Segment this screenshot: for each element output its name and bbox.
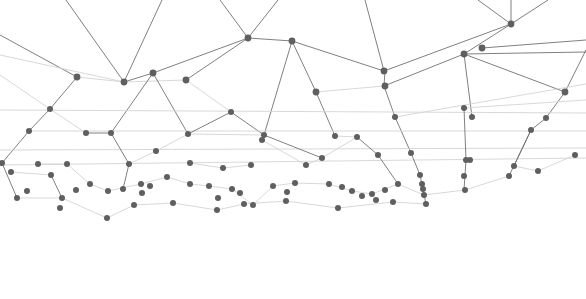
mesh-edge [295, 183, 329, 184]
mesh-node [535, 168, 541, 174]
mesh-edge [482, 40, 586, 48]
mesh-node [131, 202, 137, 208]
mesh-node [147, 183, 153, 189]
mesh-node [250, 202, 256, 208]
mesh-node [64, 161, 70, 167]
mesh-edge [464, 54, 565, 92]
mesh-node [461, 51, 468, 58]
mesh-node [469, 114, 475, 120]
mesh-edge [223, 165, 251, 168]
mesh-edge [411, 153, 420, 175]
mesh-edge [292, 41, 384, 71]
mesh-node [104, 215, 110, 221]
mesh-node [419, 181, 425, 187]
mesh-edge [186, 38, 248, 80]
mesh-edge [0, 110, 586, 113]
mesh-node [373, 197, 379, 203]
mesh-node [284, 189, 290, 195]
mesh-node [220, 165, 226, 171]
mesh-node [126, 161, 132, 167]
mesh-edge [393, 202, 426, 204]
mesh-edge [264, 41, 292, 135]
mesh-edge [365, 0, 384, 71]
mesh-edge [29, 109, 50, 131]
mesh-node [420, 186, 426, 192]
mesh-edge [464, 52, 586, 54]
mesh-node [392, 114, 398, 120]
mesh-edge [173, 203, 217, 210]
mesh-edge [220, 0, 248, 38]
mesh-edge [50, 77, 77, 109]
network-mesh-graphic [0, 0, 586, 299]
mesh-node [248, 162, 254, 168]
mesh-node [108, 130, 114, 136]
mesh-edge [124, 80, 186, 82]
mesh-node [417, 172, 423, 178]
mesh-node [506, 173, 512, 179]
mesh-edge [2, 131, 29, 163]
mesh-edge [0, 158, 586, 165]
mesh-edge [384, 54, 464, 86]
mesh-node [187, 160, 193, 166]
mesh-node [421, 192, 427, 198]
mesh-node [462, 187, 468, 193]
mesh-node [150, 70, 157, 77]
mesh-edge [0, 148, 586, 150]
mesh-node [138, 181, 144, 187]
mesh-edge [134, 203, 173, 205]
mesh-node [326, 181, 332, 187]
mesh-edge [465, 176, 509, 190]
mesh-node [121, 79, 128, 86]
mesh-edge [107, 205, 134, 218]
mesh-edge [124, 73, 153, 82]
mesh-node [562, 89, 569, 96]
mesh-edge [66, 0, 124, 82]
mesh-edge [357, 137, 378, 155]
mesh-node [259, 137, 265, 143]
mesh-edge [217, 204, 244, 210]
mesh-node [8, 169, 14, 175]
mesh-node [543, 115, 549, 121]
mesh-node [74, 74, 81, 81]
mesh-edge [2, 163, 17, 198]
mesh-node [375, 152, 381, 158]
mesh-node [215, 195, 221, 201]
mesh-node [185, 131, 191, 137]
mesh-edge [316, 92, 335, 136]
mesh-node [382, 187, 388, 193]
mesh-edge [123, 164, 129, 189]
mesh-node [572, 152, 578, 158]
mesh-node [241, 201, 247, 207]
mesh-edge [0, 35, 77, 77]
mesh-node [270, 183, 276, 189]
mesh-node [528, 127, 534, 133]
mesh-node [120, 186, 126, 192]
mesh-edge [316, 86, 384, 92]
mesh-edge [231, 112, 264, 135]
mesh-node [245, 35, 252, 42]
mesh-node [390, 199, 396, 205]
mesh-edge [51, 175, 62, 198]
mesh-node [359, 193, 365, 199]
mesh-edge [188, 134, 264, 135]
mesh-edge [546, 92, 565, 118]
mesh-node [73, 187, 79, 193]
mesh-edge [378, 155, 398, 184]
mesh-node [187, 181, 193, 187]
mesh-node [105, 188, 111, 194]
mesh-edge [156, 134, 188, 151]
mesh-edge [186, 80, 231, 112]
mesh-edge [322, 137, 357, 158]
mesh-node [228, 109, 234, 115]
mesh-edge [338, 202, 393, 208]
mesh-edge [478, 0, 511, 24]
mesh-edge [395, 117, 411, 153]
mesh-edge [124, 0, 162, 82]
mesh-node [153, 148, 159, 154]
mesh-edge [464, 108, 466, 160]
mesh-edge [190, 163, 223, 168]
mesh-node [292, 180, 298, 186]
mesh-node [24, 188, 30, 194]
mesh-node [164, 174, 170, 180]
mesh-edge [248, 0, 278, 38]
